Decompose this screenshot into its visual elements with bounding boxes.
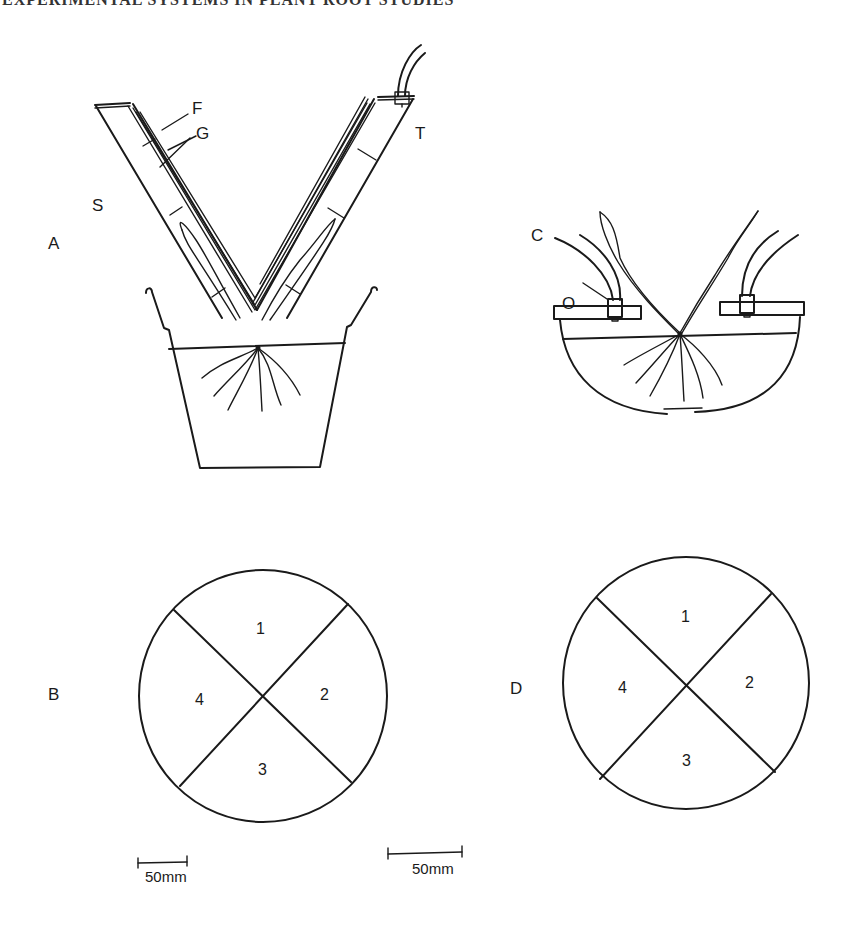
tube-t [395,45,425,107]
scale-bar-b: 50mm [138,856,187,885]
sector-d-2: 2 [745,674,754,691]
sector-b-3: 3 [258,761,267,778]
sector-d-3: 3 [682,752,691,769]
tube-right [740,231,798,317]
callout-o: O [562,294,575,313]
callout-t: T [415,124,425,143]
sector-d-4: 4 [618,679,627,696]
panel-c-label: C [531,226,543,245]
panel-a: A [48,45,425,468]
pot [146,287,377,468]
scale-label-b: 50mm [145,868,187,885]
roots-c [624,332,722,402]
leader-f [162,114,188,130]
inner-v-sandwich [133,103,375,310]
callout-g: G [196,124,209,143]
panel-d-label: D [510,679,522,698]
figure-canvas: A [0,0,845,930]
circle-d [563,557,809,809]
sector-b-4: 4 [195,691,204,708]
bowl [554,302,804,414]
panel-c: C O [531,211,804,414]
v-holder-right-arm [252,96,414,318]
leader-g [168,136,196,150]
scale-label-d: 50mm [412,860,454,877]
panel-b-label: B [48,685,59,704]
panel-a-label: A [48,234,60,253]
sector-d-1: 1 [681,608,690,625]
sector-b-1: 1 [256,620,265,637]
callout-f: F [192,99,202,118]
roots-a [202,346,300,412]
callout-s: S [92,196,103,215]
scale-bar-d: 50mm [388,846,462,877]
panel-b: B 1 2 3 4 50mm [48,570,387,885]
sector-b-2: 2 [320,686,329,703]
panel-d: D 1 2 3 4 50mm [388,557,809,877]
leader-o [583,283,607,299]
